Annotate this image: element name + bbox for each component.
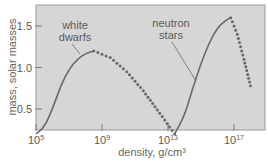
dot (146, 96, 149, 99)
annotation-neutron-stars-line1: neutron (152, 17, 189, 29)
dot (233, 25, 236, 28)
dot (245, 69, 248, 72)
dot (149, 99, 152, 102)
dot (166, 122, 169, 125)
dot (229, 16, 232, 19)
dot (131, 77, 134, 80)
dot (128, 73, 131, 76)
dot (136, 83, 139, 86)
annotation-neutron-stars-line2: stars (159, 29, 183, 41)
x-tick-label: 109 (94, 134, 110, 146)
dot (237, 37, 240, 40)
dot (248, 80, 251, 83)
dot (241, 54, 244, 57)
dot (154, 105, 157, 108)
dot (238, 41, 241, 44)
dot (96, 51, 99, 54)
annotation-white-dwarfs-line1: white (61, 19, 88, 31)
x-tick-label: 105 (28, 134, 44, 146)
dot (112, 59, 115, 62)
dot (171, 129, 174, 132)
annotation-white-dwarfs-line2: dwarfs (59, 31, 92, 43)
dot (122, 67, 125, 70)
dot (161, 115, 164, 118)
dot (115, 62, 118, 65)
dot (101, 53, 104, 56)
dot (158, 112, 161, 115)
dot (163, 119, 166, 122)
dot (168, 125, 171, 128)
dot (105, 54, 108, 57)
dot (231, 20, 234, 23)
dot (239, 45, 242, 48)
x-tick-label: 1017 (224, 134, 244, 146)
dot (109, 56, 112, 59)
dot (144, 92, 147, 95)
dot (156, 108, 159, 111)
dot (240, 49, 243, 52)
dot (236, 33, 239, 36)
chart: 0.51.01.5 10510910131017 white dwarfs ne… (0, 0, 268, 163)
dot (119, 65, 122, 68)
x-axis-label: density, g/cm³ (0, 146, 268, 158)
dot (151, 102, 154, 105)
dot (142, 89, 145, 92)
x-tick-label: 1013 (158, 134, 178, 146)
dot (242, 58, 245, 61)
dot (234, 29, 237, 32)
dot (243, 61, 246, 64)
dot (244, 65, 247, 68)
dot (249, 84, 252, 87)
dot (139, 86, 142, 89)
dot (92, 49, 95, 52)
dot (246, 73, 249, 76)
y-axis-label: mass, solar masses (6, 2, 20, 132)
dot (247, 77, 250, 80)
dot (125, 70, 128, 73)
dot (134, 80, 137, 83)
